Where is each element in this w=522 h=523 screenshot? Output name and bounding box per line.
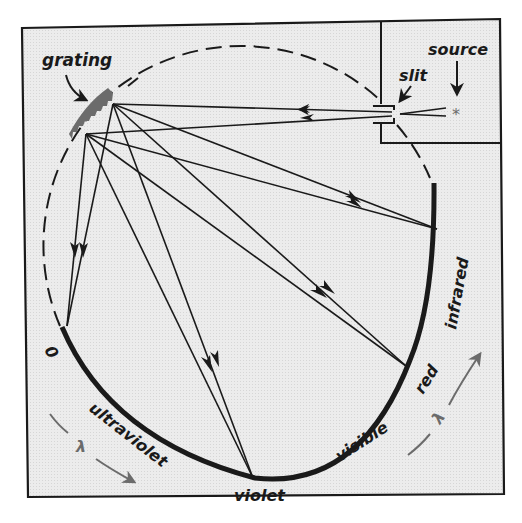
label-slit: slit [399,66,428,85]
label-source: source [428,40,488,59]
grating-spectrograph-diagram: * g [0,0,522,523]
label-grating: grating [42,50,112,70]
lambda-left-label: λ [75,437,86,456]
label-violet: violet [234,486,286,505]
source-star-icon: * [452,105,460,124]
